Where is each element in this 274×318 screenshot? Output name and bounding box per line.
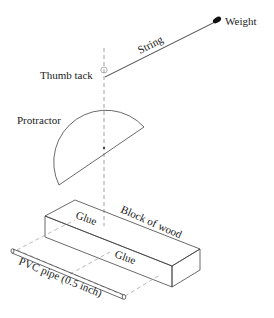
glue-top-label: Glue [74, 209, 98, 228]
thumb-tack-label: Thumb tack [40, 69, 93, 81]
protractor-center-dot [103, 147, 105, 149]
string-line [105, 22, 215, 77]
block-label: Block of wood [119, 203, 184, 241]
pipe-label: PVC pipe (0.5 inch) [17, 255, 104, 300]
glue-side-label: Glue [113, 248, 137, 267]
protractor-shape [54, 110, 144, 185]
protractor-label: Protractor [17, 114, 61, 126]
string-label: String [135, 33, 165, 56]
weight-label: Weight [225, 15, 257, 27]
apparatus-diagram: Weight String Thumb tack Protractor Glue… [0, 0, 274, 318]
